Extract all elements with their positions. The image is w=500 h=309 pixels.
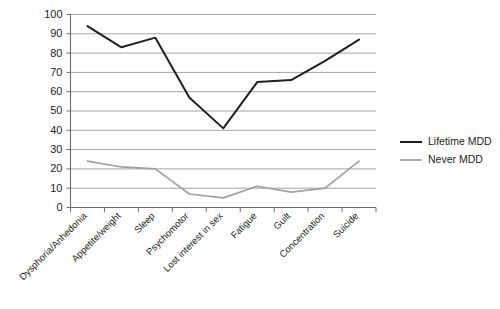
y-axis-tick-label: 10	[50, 182, 62, 194]
y-axis-tick-label: 100	[44, 8, 62, 20]
y-axis-tick-label: 50	[50, 104, 62, 116]
legend-label-lifetime-mdd: Lifetime MDD	[428, 135, 492, 147]
x-axis-ticks-group	[71, 208, 377, 213]
y-axis-tick-label: 70	[50, 66, 62, 78]
series-line-lifetime-mdd	[87, 26, 359, 128]
chart-canvas: 1009080706050403020100 Dysphoria/Anhedon…	[0, 0, 500, 309]
x-axis-label-lost-interest-in-sex: Lost interest in sex	[161, 210, 225, 274]
y-axis-tick-label: 0	[56, 201, 62, 213]
legend-label-never-mdd: Never MDD	[428, 153, 483, 165]
y-axis-tick-label: 30	[50, 143, 62, 155]
x-axis-label-guilt: Guilt	[271, 210, 293, 232]
y-axis-tick-label: 80	[50, 47, 62, 59]
y-axis-tick-label: 90	[50, 27, 62, 39]
chart-legend: Lifetime MDDNever MDD	[400, 135, 492, 165]
gridlines-group	[71, 15, 377, 189]
x-axis-label-fatigue: Fatigue	[228, 210, 258, 240]
x-axis-labels-group: Dysphoria/AnhedoniaAppetite/weightSleepP…	[17, 210, 361, 283]
y-axis-tick-label: 60	[50, 85, 62, 97]
x-axis-label-suicide: Suicide	[331, 210, 361, 240]
line-chart: 1009080706050403020100 Dysphoria/Anhedon…	[0, 0, 500, 309]
y-axis-tick-label: 40	[50, 124, 62, 136]
x-axis-label-sleep: Sleep	[132, 210, 157, 235]
y-axis-tick-label: 20	[50, 162, 62, 174]
y-axis-ticks-group: 1009080706050403020100	[44, 8, 70, 213]
data-series-group	[87, 26, 359, 198]
series-line-never-mdd	[87, 161, 359, 198]
